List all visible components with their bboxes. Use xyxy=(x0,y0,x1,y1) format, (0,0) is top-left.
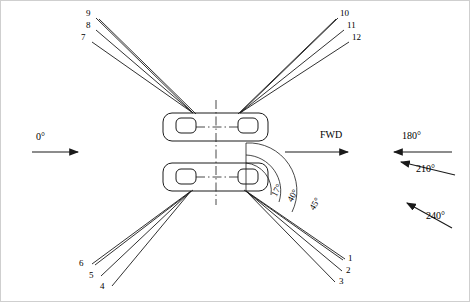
beam-label-11: 11 xyxy=(347,21,356,30)
beam-label-12: 12 xyxy=(352,33,361,42)
beam-label-4: 4 xyxy=(100,282,105,291)
beam-label-1: 1 xyxy=(348,254,353,263)
beam-fan-upper-left xyxy=(92,18,196,114)
label-0deg: 0° xyxy=(36,132,45,142)
diagram-vector xyxy=(0,0,470,302)
beam-label-5: 5 xyxy=(89,271,94,280)
beam-label-10: 10 xyxy=(340,9,349,18)
beam-label-7: 7 xyxy=(81,33,86,42)
beam-label-3: 3 xyxy=(339,277,344,286)
center-axes xyxy=(196,100,240,205)
beam-label-8: 8 xyxy=(86,21,91,30)
label-210deg: 210° xyxy=(416,164,435,174)
beam-fan-lower-right xyxy=(244,190,345,282)
label-180deg: 180° xyxy=(402,131,421,141)
label-240deg: 240° xyxy=(426,211,445,221)
diagram-canvas: 9 8 7 10 11 12 6 5 4 1 2 3 0° FWD 180° 2… xyxy=(0,0,470,302)
angle-arcs xyxy=(246,143,297,212)
beam-label-9: 9 xyxy=(86,9,91,18)
label-fwd: FWD xyxy=(320,130,342,140)
beam-fan-lower-left xyxy=(92,190,193,286)
beam-label-6: 6 xyxy=(79,259,84,268)
beam-label-2: 2 xyxy=(346,266,351,275)
beam-fan-upper-right xyxy=(238,18,349,114)
